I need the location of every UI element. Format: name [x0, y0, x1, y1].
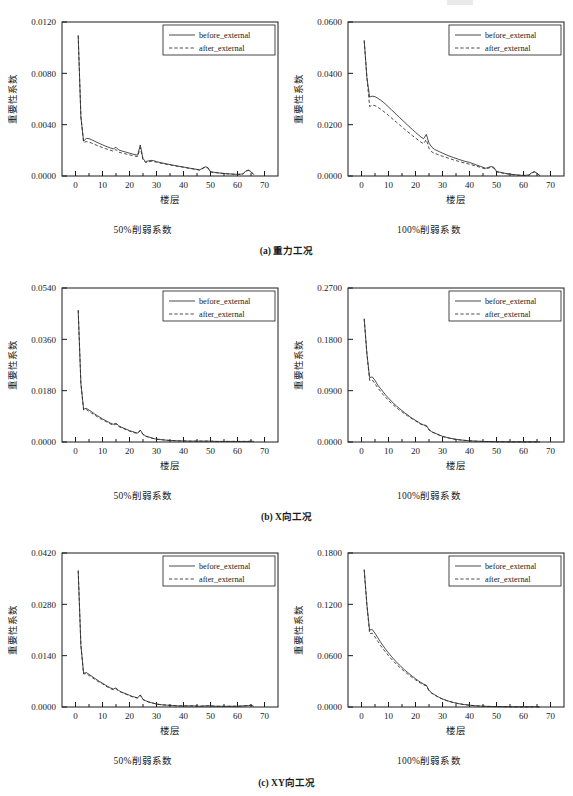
- svg-text:0: 0: [73, 446, 78, 456]
- svg-text:0.1800: 0.1800: [317, 335, 342, 345]
- svg-text:60: 60: [519, 180, 529, 190]
- svg-text:0.0280: 0.0280: [31, 600, 56, 610]
- svg-text:重要性系数: 重要性系数: [293, 605, 304, 655]
- svg-text:0.1800: 0.1800: [317, 548, 342, 558]
- svg-text:60: 60: [519, 711, 529, 721]
- svg-text:70: 70: [260, 711, 270, 721]
- svg-text:before_external: before_external: [485, 31, 537, 40]
- svg-text:after_external: after_external: [199, 575, 245, 584]
- svg-text:重要性系数: 重要性系数: [7, 605, 18, 655]
- svg-text:before_external: before_external: [199, 31, 251, 40]
- svg-text:30: 30: [152, 446, 162, 456]
- svg-text:10: 10: [384, 711, 394, 721]
- svg-text:before_external: before_external: [199, 297, 251, 306]
- panel-c-right: 0.00000.06000.12000.1800010203040506070楼…: [286, 531, 572, 796]
- chart-b-50pct: 0.00000.01800.03600.0540010203040506070楼…: [0, 266, 286, 481]
- svg-text:20: 20: [125, 446, 135, 456]
- row-caption-c: (c) XY向工况: [0, 775, 573, 789]
- sub-caption-b-left: 50%削弱系数: [0, 488, 286, 502]
- svg-text:20: 20: [125, 180, 135, 190]
- svg-text:20: 20: [125, 711, 135, 721]
- chart-a-50pct: 0.00000.00400.00800.0120010203040506070楼…: [0, 0, 286, 215]
- panel-c-left: 0.00000.01400.02800.0420010203040506070楼…: [0, 531, 286, 796]
- svg-text:after_external: after_external: [485, 575, 531, 584]
- svg-text:0.0000: 0.0000: [317, 702, 342, 712]
- svg-text:20: 20: [411, 711, 421, 721]
- svg-text:70: 70: [260, 180, 270, 190]
- svg-text:楼层: 楼层: [160, 725, 180, 736]
- svg-text:30: 30: [152, 711, 162, 721]
- svg-text:50: 50: [492, 446, 502, 456]
- svg-text:70: 70: [546, 446, 556, 456]
- svg-text:60: 60: [233, 711, 243, 721]
- svg-text:0.0000: 0.0000: [31, 171, 56, 181]
- svg-text:0.0600: 0.0600: [317, 651, 342, 661]
- svg-text:0.0200: 0.0200: [317, 120, 342, 130]
- svg-text:50: 50: [492, 711, 502, 721]
- sub-caption-a-right: 100%削弱系数: [286, 222, 572, 236]
- svg-text:40: 40: [179, 180, 189, 190]
- svg-text:70: 70: [546, 180, 556, 190]
- svg-text:40: 40: [465, 180, 475, 190]
- svg-text:20: 20: [411, 180, 421, 190]
- figure-row-c: 0.00000.01400.02800.0420010203040506070楼…: [0, 531, 573, 796]
- svg-text:0.0540: 0.0540: [31, 283, 56, 293]
- svg-text:10: 10: [98, 180, 108, 190]
- svg-text:after_external: after_external: [485, 310, 531, 319]
- svg-text:40: 40: [465, 446, 475, 456]
- svg-text:before_external: before_external: [485, 562, 537, 571]
- svg-text:60: 60: [233, 180, 243, 190]
- svg-text:0.2700: 0.2700: [317, 283, 342, 293]
- svg-text:楼层: 楼层: [446, 725, 466, 736]
- panel-b-left: 0.00000.01800.03600.0540010203040506070楼…: [0, 266, 286, 531]
- svg-text:30: 30: [152, 180, 162, 190]
- svg-text:before_external: before_external: [199, 562, 251, 571]
- svg-text:0: 0: [359, 446, 364, 456]
- sub-caption-c-right: 100%削弱系数: [286, 753, 572, 767]
- svg-text:楼层: 楼层: [160, 460, 180, 471]
- svg-text:50: 50: [492, 180, 502, 190]
- svg-text:40: 40: [179, 711, 189, 721]
- svg-text:0.0180: 0.0180: [31, 386, 56, 396]
- svg-text:10: 10: [98, 446, 108, 456]
- svg-text:0: 0: [73, 180, 78, 190]
- panel-b-right: 0.00000.09000.18000.2700010203040506070楼…: [286, 266, 572, 531]
- svg-text:60: 60: [519, 446, 529, 456]
- svg-text:20: 20: [411, 446, 421, 456]
- sub-caption-a-left: 50%削弱系数: [0, 222, 286, 236]
- row-caption-a: (a) 重力工况: [0, 243, 573, 257]
- panel-a-left: 0.00000.00400.00800.0120010203040506070楼…: [0, 0, 286, 266]
- svg-text:0.0040: 0.0040: [31, 120, 56, 130]
- svg-text:0.0400: 0.0400: [317, 69, 342, 79]
- svg-text:70: 70: [260, 446, 270, 456]
- svg-text:重要性系数: 重要性系数: [7, 74, 18, 124]
- svg-text:50: 50: [206, 180, 216, 190]
- sub-caption-b-right: 100%削弱系数: [286, 488, 572, 502]
- svg-text:0.0080: 0.0080: [31, 69, 56, 79]
- chart-b-100pct: 0.00000.09000.18000.2700010203040506070楼…: [286, 266, 572, 481]
- svg-text:after_external: after_external: [485, 44, 531, 53]
- svg-text:10: 10: [98, 711, 108, 721]
- chart-a-100pct: 0.00000.02000.04000.0600010203040506070楼…: [286, 0, 572, 215]
- figure-container: 0.00000.00400.00800.0120010203040506070楼…: [0, 0, 573, 796]
- svg-text:楼层: 楼层: [160, 194, 180, 205]
- svg-text:40: 40: [465, 711, 475, 721]
- svg-text:重要性系数: 重要性系数: [7, 340, 18, 390]
- chart-c-100pct: 0.00000.06000.12000.1800010203040506070楼…: [286, 531, 572, 746]
- chart-c-50pct: 0.00000.01400.02800.0420010203040506070楼…: [0, 531, 286, 746]
- svg-text:after_external: after_external: [199, 44, 245, 53]
- svg-text:50: 50: [206, 446, 216, 456]
- svg-text:after_external: after_external: [199, 310, 245, 319]
- sub-caption-c-left: 50%削弱系数: [0, 753, 286, 767]
- svg-text:0.0420: 0.0420: [31, 548, 56, 558]
- svg-text:0.0600: 0.0600: [317, 17, 342, 27]
- svg-text:40: 40: [179, 446, 189, 456]
- svg-text:0.0900: 0.0900: [317, 386, 342, 396]
- svg-text:0.0000: 0.0000: [31, 437, 56, 447]
- svg-text:0: 0: [73, 711, 78, 721]
- svg-text:30: 30: [438, 180, 448, 190]
- svg-text:30: 30: [438, 711, 448, 721]
- svg-text:0.0120: 0.0120: [31, 17, 56, 27]
- panel-a-right: 0.00000.02000.04000.0600010203040506070楼…: [286, 0, 572, 266]
- svg-text:0: 0: [359, 180, 364, 190]
